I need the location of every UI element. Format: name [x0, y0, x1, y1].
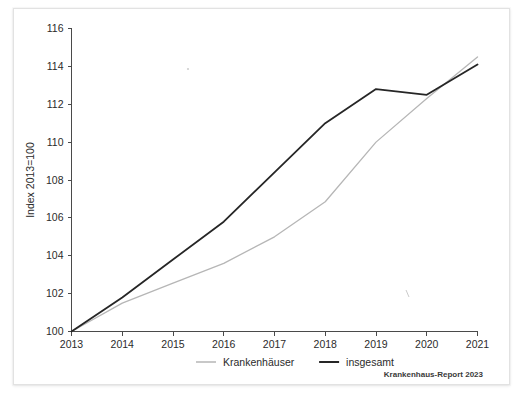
y-tick-label: 100 — [46, 325, 64, 337]
y-tick-label: 108 — [46, 174, 64, 186]
chart-figure: 100102104106108110112114116 201320142015… — [0, 0, 526, 406]
x-tick-labels: 201320142015201620172018201920202021 — [60, 338, 490, 350]
y-tick-label: 116 — [47, 22, 64, 34]
line-chart-canvas: 100102104106108110112114116 201320142015… — [0, 0, 526, 406]
chart-legend: Krankenhäuserinsgesamt — [196, 356, 394, 368]
x-tick-label: 2019 — [364, 338, 388, 350]
series-group — [72, 57, 478, 332]
x-tick-label: 2018 — [314, 338, 338, 350]
y-tick-label: 106 — [46, 211, 64, 223]
y-axis-title: Index 2013=100 — [24, 142, 36, 218]
x-tick-label: 2014 — [111, 338, 135, 350]
paper-speck-icon — [187, 68, 189, 70]
y-tick-label: 104 — [46, 249, 64, 261]
series-line-2 — [72, 64, 478, 331]
legend-label-2: insgesamt — [346, 356, 394, 368]
x-tick-label: 2016 — [212, 338, 236, 350]
x-tick-label: 2013 — [60, 338, 84, 350]
axes-group — [68, 29, 478, 336]
x-tick-label: 2015 — [161, 338, 185, 350]
axis-lines — [72, 29, 478, 332]
legend-label-1: Krankenhäuser — [223, 356, 295, 368]
paper-mark-icon — [406, 290, 409, 297]
y-tick-label: 114 — [47, 60, 64, 72]
y-tick-labels: 100102104106108110112114116 — [46, 22, 64, 337]
x-tick-label: 2017 — [263, 338, 287, 350]
y-tick-label: 110 — [47, 136, 64, 148]
y-tick-label: 102 — [46, 287, 64, 299]
y-tick-label: 112 — [47, 98, 64, 110]
x-tick-label: 2020 — [415, 338, 439, 350]
source-note: Krankenhaus-Report 2023 — [384, 370, 484, 379]
decorative-specks — [187, 68, 409, 297]
x-tick-label: 2021 — [466, 338, 490, 350]
